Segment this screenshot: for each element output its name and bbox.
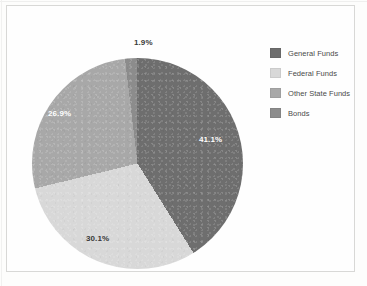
chart-frame: 1.9% 41.1% 30.1% 26.9% General Funds Fed… xyxy=(6,5,355,272)
page-canvas: 1.9% 41.1% 30.1% 26.9% General Funds Fed… xyxy=(0,0,367,286)
legend-label-federal-funds: Federal Funds xyxy=(288,69,337,78)
legend-swatch-icon-general-funds xyxy=(270,48,281,58)
legend-label-general-funds: General Funds xyxy=(288,49,338,58)
legend-label-other-state-funds: Other State Funds xyxy=(288,89,350,98)
scan-edge-top xyxy=(0,1,367,2)
slice-label-bonds: 1.9% xyxy=(134,38,153,47)
legend-swatch-icon-bonds xyxy=(270,108,281,118)
legend-item-general-funds[interactable]: General Funds xyxy=(270,43,360,63)
pie-plot-area: 1.9% 41.1% 30.1% 26.9% xyxy=(23,44,253,270)
legend-item-other-state-funds[interactable]: Other State Funds xyxy=(270,83,360,103)
legend-item-federal-funds[interactable]: Federal Funds xyxy=(270,63,360,83)
legend-item-bonds[interactable]: Bonds xyxy=(270,103,360,123)
chart-legend: General Funds Federal Funds Other State … xyxy=(270,43,360,123)
legend-swatch-icon-federal-funds xyxy=(270,68,281,78)
slice-label-other-state-funds: 26.9% xyxy=(48,109,71,118)
pie-chart[interactable] xyxy=(32,58,243,269)
legend-swatch-icon-other-state-funds xyxy=(270,88,281,98)
slice-label-federal-funds: 30.1% xyxy=(86,234,109,243)
slice-label-general-funds: 41.1% xyxy=(199,135,222,144)
legend-label-bonds: Bonds xyxy=(288,109,310,118)
scan-edge-left xyxy=(1,0,2,286)
